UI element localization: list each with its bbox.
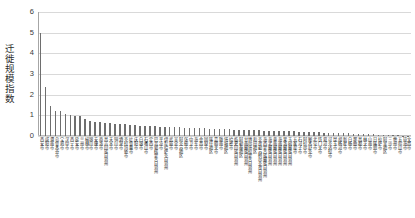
bar [283, 131, 285, 136]
bar-slot [406, 12, 411, 136]
bar [323, 133, 325, 137]
bar [353, 134, 355, 136]
bar [313, 132, 315, 136]
bar [94, 122, 96, 136]
bar [154, 126, 156, 136]
bar [119, 124, 121, 136]
bar [74, 116, 76, 136]
bar [318, 132, 320, 136]
bar [129, 125, 131, 136]
bar [40, 33, 42, 136]
bar [199, 128, 201, 136]
bar [214, 129, 216, 136]
bar [194, 128, 196, 136]
bar [253, 130, 255, 136]
bar [243, 130, 245, 136]
bar [224, 129, 226, 136]
bar [70, 115, 72, 136]
y-axis-title: 迁徙规模指数 [2, 18, 16, 130]
bar [99, 122, 101, 136]
bar [79, 116, 81, 136]
bar [328, 133, 330, 137]
y-axis-tick-labels: 0123456 [18, 12, 36, 136]
bar [134, 125, 136, 136]
bar [348, 133, 350, 136]
bar [169, 127, 171, 136]
bar [159, 127, 161, 137]
bar [144, 126, 146, 136]
bar [392, 135, 394, 136]
bar [84, 119, 86, 136]
y-tick-label: 4 [20, 50, 34, 58]
bar [358, 134, 360, 136]
plot-area [38, 12, 411, 136]
bar [114, 124, 116, 136]
bar [204, 128, 206, 136]
bar [109, 123, 111, 136]
bar [258, 130, 260, 136]
bar [139, 126, 141, 136]
bar [388, 135, 390, 136]
bar [288, 131, 290, 136]
bar [219, 129, 221, 136]
bar [368, 134, 370, 136]
bar [124, 124, 126, 136]
bar [333, 133, 335, 136]
y-tick-label: 5 [20, 29, 34, 37]
bar [209, 129, 211, 136]
y-tick-label: 2 [20, 91, 34, 99]
x-tick-label: 文昌市 [406, 137, 411, 149]
bar-series [38, 12, 411, 136]
bar [45, 87, 47, 136]
bar [179, 127, 181, 136]
bar [238, 130, 240, 136]
bar [363, 134, 365, 136]
bar [104, 123, 106, 136]
y-tick-label: 3 [20, 70, 34, 78]
bar [164, 127, 166, 136]
bar [273, 131, 275, 136]
bar [248, 130, 250, 136]
y-tick-label: 0 [20, 132, 34, 140]
bar [263, 131, 265, 136]
bar [293, 131, 295, 136]
bar [308, 132, 310, 136]
bar [50, 106, 52, 136]
bar [233, 130, 235, 136]
bar [174, 127, 176, 136]
bar [343, 133, 345, 136]
bar [189, 128, 191, 136]
bar [278, 131, 280, 136]
bar [89, 121, 91, 136]
bar [229, 129, 231, 136]
bar [298, 132, 300, 136]
bar [60, 111, 62, 136]
bar [184, 128, 186, 136]
bar [303, 132, 305, 136]
bar [55, 111, 57, 136]
migration-scale-index-bar-chart: 迁徙规模指数 0123456 西安市咸阳市渭南市乌鲁木齐市宝鸡市汉中市西宁市延安… [0, 0, 415, 218]
bar [149, 126, 151, 136]
y-tick-label: 1 [20, 112, 34, 120]
bar [383, 135, 385, 136]
x-label-slot: 文昌市 [406, 137, 411, 215]
bar [268, 131, 270, 136]
bar [378, 135, 380, 136]
bar [65, 114, 67, 136]
bar [373, 134, 375, 136]
x-axis-category-labels: 西安市咸阳市渭南市乌鲁木齐市宝鸡市汉中市西宁市延安市兰州市榆林市银川市安康市商洛… [38, 137, 411, 215]
bar [397, 135, 399, 136]
y-tick-label: 6 [20, 8, 34, 16]
bar [338, 133, 340, 136]
